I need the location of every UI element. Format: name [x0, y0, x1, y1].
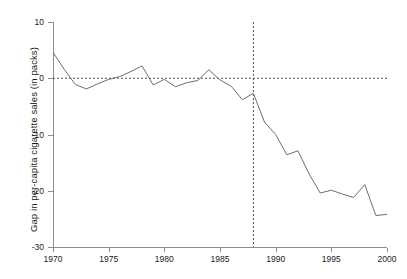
x-tick-label: 2000	[367, 255, 407, 264]
y-axis-label: Gap in per-capita cigarette sales (in pa…	[22, 0, 44, 279]
y-tick-label: -20	[16, 187, 44, 196]
series-canvas	[53, 22, 387, 247]
x-tick-label: 1975	[89, 255, 129, 264]
x-tick	[164, 248, 165, 252]
gap-plot-figure: Gap in per-capita cigarette sales (in pa…	[0, 0, 407, 279]
plot-area	[53, 22, 387, 247]
x-tick	[331, 248, 332, 252]
y-tick-label: 0	[16, 74, 44, 83]
gap-series-line	[53, 52, 387, 215]
x-tick	[387, 248, 388, 252]
x-tick-label: 1990	[256, 255, 296, 264]
y-tick-label: 10	[16, 18, 44, 27]
x-tick	[220, 248, 221, 252]
x-tick-label: 1970	[33, 255, 73, 264]
x-tick	[53, 248, 54, 252]
x-tick	[276, 248, 277, 252]
x-tick-label: 1995	[311, 255, 351, 264]
x-tick-label: 1985	[200, 255, 240, 264]
y-tick-label: -10	[16, 131, 44, 140]
x-tick	[109, 248, 110, 252]
y-tick-label: -30	[16, 243, 44, 252]
x-tick-label: 1980	[144, 255, 184, 264]
